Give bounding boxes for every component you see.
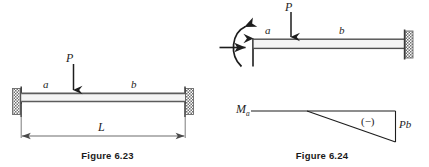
label-moment-ma-subscript: a <box>246 109 250 118</box>
beam-body-fill <box>21 93 185 101</box>
caption-figure-6-24: Figure 6.24 <box>215 150 429 161</box>
label-moment-pb: Pb <box>399 119 411 130</box>
label-segment-b-623: b <box>131 79 137 90</box>
moment-arc-path <box>233 27 245 67</box>
beam-member <box>21 93 185 101</box>
label-segment-b-624: b <box>339 25 345 36</box>
label-segment-a-623: a <box>43 79 49 90</box>
beam-member <box>253 39 411 48</box>
left-fixed-support <box>13 87 22 118</box>
right-fixed-support <box>185 87 194 118</box>
figure-6-24-drawing <box>215 0 429 167</box>
label-segment-a-624: a <box>265 25 271 36</box>
beam-body <box>253 39 411 48</box>
moment-reaction-arc <box>233 27 245 67</box>
label-moment-ma: Ma <box>236 103 250 118</box>
figure-6-23-drawing <box>0 0 215 167</box>
right-fixed-support <box>405 30 413 60</box>
label-load-p-624: P <box>285 1 292 13</box>
label-load-p-623: P <box>66 52 73 64</box>
figure-6-24: P a b Ma (−) Pb Figure 6.24 <box>215 0 429 167</box>
right-support-hatch <box>405 31 413 58</box>
right-support-hatch <box>186 89 194 115</box>
figure-sheet: P a b L Figure 6.23 <box>0 0 429 167</box>
label-span-l-623: L <box>98 121 105 133</box>
label-moment-ma-base: M <box>236 102 246 116</box>
left-support-hatch <box>13 89 21 115</box>
figure-6-23: P a b L Figure 6.23 <box>0 0 215 167</box>
label-sign-negative: (−) <box>361 116 375 127</box>
caption-figure-6-23: Figure 6.23 <box>0 150 215 161</box>
moment-diagram-slope <box>307 111 396 142</box>
